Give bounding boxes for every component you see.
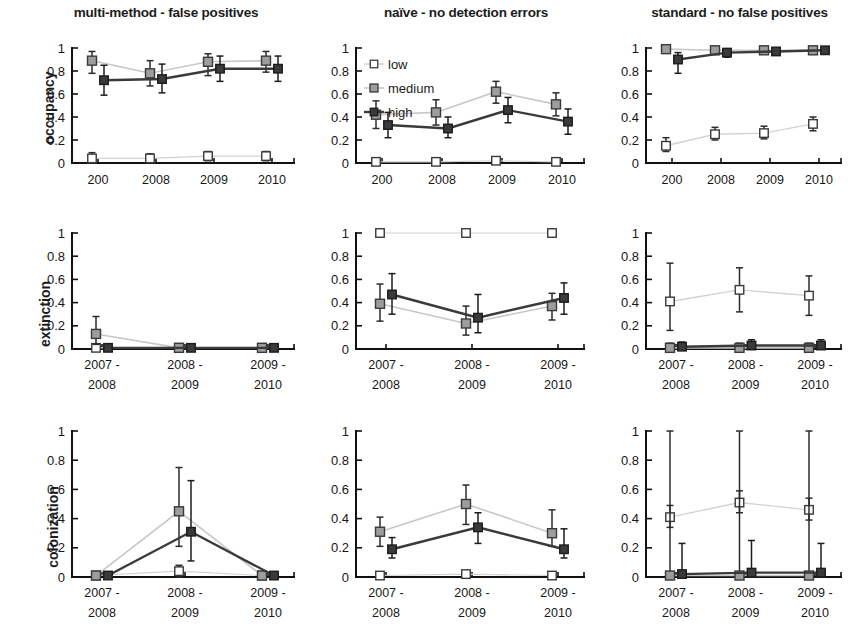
svg-text:0.2: 0.2 bbox=[331, 133, 349, 148]
svg-text:2010: 2010 bbox=[548, 173, 576, 187]
panel-extinction-standard: 00.20.40.60.812007 -20082008 -20092009 -… bbox=[600, 215, 857, 413]
svg-text:2007 -: 2007 - bbox=[658, 358, 693, 372]
svg-text:2009: 2009 bbox=[732, 378, 760, 392]
svg-text:2009: 2009 bbox=[756, 173, 784, 187]
svg-text:2010: 2010 bbox=[801, 378, 829, 392]
svg-text:1: 1 bbox=[58, 226, 65, 241]
figure-root: multi-method - false positives occupancy… bbox=[0, 0, 857, 641]
legend-entry-medium: medium bbox=[364, 81, 434, 96]
panel-colonization-naive: 00.20.40.60.812007 -20082008 -20092009 -… bbox=[310, 413, 600, 641]
panel-occupancy-multimethod: multi-method - false positives occupancy… bbox=[0, 0, 310, 215]
svg-text:2008 -: 2008 - bbox=[167, 358, 202, 372]
svg-text:200: 200 bbox=[372, 173, 393, 187]
svg-text:0: 0 bbox=[342, 570, 349, 585]
svg-text:medium: medium bbox=[388, 81, 434, 96]
svg-text:0.2: 0.2 bbox=[621, 318, 639, 333]
svg-text:2008 -: 2008 - bbox=[454, 586, 489, 600]
svg-text:0.2: 0.2 bbox=[331, 540, 349, 555]
svg-text:0.2: 0.2 bbox=[621, 540, 639, 555]
svg-text:1: 1 bbox=[342, 41, 349, 56]
svg-text:2008 -: 2008 - bbox=[728, 586, 763, 600]
svg-text:2009: 2009 bbox=[458, 378, 486, 392]
svg-text:high: high bbox=[388, 105, 413, 120]
svg-text:1: 1 bbox=[632, 226, 639, 241]
svg-text:200: 200 bbox=[662, 173, 683, 187]
svg-text:0.6: 0.6 bbox=[331, 87, 349, 102]
svg-text:2010: 2010 bbox=[544, 606, 572, 620]
svg-text:0: 0 bbox=[632, 342, 639, 357]
series-low bbox=[662, 117, 818, 152]
svg-text:2009: 2009 bbox=[732, 606, 760, 620]
svg-text:0.6: 0.6 bbox=[621, 87, 639, 102]
svg-text:2009 -: 2009 - bbox=[797, 586, 832, 600]
series-high bbox=[388, 513, 569, 558]
svg-text:0: 0 bbox=[342, 156, 349, 171]
svg-text:2010: 2010 bbox=[801, 606, 829, 620]
plot-area: 00.20.40.60.81200200820092010 bbox=[600, 0, 857, 215]
svg-text:0.8: 0.8 bbox=[621, 64, 639, 79]
svg-text:2010: 2010 bbox=[254, 378, 282, 392]
svg-text:0.4: 0.4 bbox=[331, 110, 349, 125]
svg-text:2008: 2008 bbox=[372, 606, 400, 620]
svg-text:0.8: 0.8 bbox=[47, 249, 65, 264]
svg-text:0.2: 0.2 bbox=[621, 133, 639, 148]
svg-text:0.2: 0.2 bbox=[47, 318, 65, 333]
svg-text:0.6: 0.6 bbox=[331, 272, 349, 287]
svg-text:0.2: 0.2 bbox=[47, 540, 65, 555]
svg-text:2008: 2008 bbox=[707, 173, 735, 187]
svg-text:2009: 2009 bbox=[200, 173, 228, 187]
svg-text:0: 0 bbox=[632, 156, 639, 171]
svg-text:0.8: 0.8 bbox=[621, 453, 639, 468]
svg-text:0.8: 0.8 bbox=[621, 249, 639, 264]
svg-text:2007 -: 2007 - bbox=[368, 358, 403, 372]
svg-text:2008: 2008 bbox=[88, 606, 116, 620]
plot-area: 00.20.40.60.812007 -20082008 -20092009 -… bbox=[0, 413, 310, 641]
svg-text:2008: 2008 bbox=[88, 378, 116, 392]
svg-text:2008: 2008 bbox=[662, 606, 690, 620]
svg-text:2008 -: 2008 - bbox=[167, 586, 202, 600]
panel-colonization-standard: 00.20.40.60.812007 -20082008 -20092009 -… bbox=[600, 413, 857, 641]
svg-text:2009: 2009 bbox=[171, 378, 199, 392]
svg-text:2009 -: 2009 - bbox=[540, 586, 575, 600]
svg-text:0.4: 0.4 bbox=[331, 511, 349, 526]
svg-text:0.4: 0.4 bbox=[47, 295, 65, 310]
svg-text:1: 1 bbox=[58, 424, 65, 439]
svg-text:2007 -: 2007 - bbox=[368, 586, 403, 600]
svg-text:0: 0 bbox=[58, 156, 65, 171]
svg-text:1: 1 bbox=[342, 226, 349, 241]
series-high bbox=[100, 56, 283, 95]
svg-text:1: 1 bbox=[58, 41, 65, 56]
svg-text:0: 0 bbox=[58, 342, 65, 357]
panel-colonization-multimethod: colonization 00.20.40.60.812007 -2008200… bbox=[0, 413, 310, 641]
svg-text:0.2: 0.2 bbox=[331, 318, 349, 333]
svg-text:2010: 2010 bbox=[258, 173, 286, 187]
plot-area: 00.20.40.60.812007 -20082008 -20092009 -… bbox=[0, 215, 310, 413]
svg-text:2007 -: 2007 - bbox=[658, 586, 693, 600]
svg-text:0: 0 bbox=[58, 570, 65, 585]
svg-text:2008 -: 2008 - bbox=[728, 358, 763, 372]
plot-area: 00.20.40.60.81200200820092010lowmediumhi… bbox=[310, 0, 600, 215]
series-high bbox=[104, 481, 279, 580]
svg-text:0.8: 0.8 bbox=[331, 64, 349, 79]
svg-text:0.4: 0.4 bbox=[331, 295, 349, 310]
series-medium bbox=[666, 431, 814, 580]
svg-text:2008 -: 2008 - bbox=[454, 358, 489, 372]
svg-text:2009 -: 2009 - bbox=[540, 358, 575, 372]
svg-text:2010: 2010 bbox=[254, 606, 282, 620]
svg-text:2009: 2009 bbox=[171, 606, 199, 620]
svg-text:200: 200 bbox=[88, 173, 109, 187]
svg-text:2009 -: 2009 - bbox=[250, 358, 285, 372]
svg-text:0.4: 0.4 bbox=[47, 511, 65, 526]
svg-text:low: low bbox=[388, 57, 408, 72]
svg-text:0.4: 0.4 bbox=[621, 511, 639, 526]
svg-text:2008: 2008 bbox=[372, 378, 400, 392]
svg-text:0.6: 0.6 bbox=[331, 482, 349, 497]
plot-area: 00.20.40.60.81200200820092010 bbox=[0, 0, 310, 215]
legend-entry-low: low bbox=[364, 57, 408, 72]
svg-text:1: 1 bbox=[632, 424, 639, 439]
svg-text:2007 -: 2007 - bbox=[84, 586, 119, 600]
panel-grid: multi-method - false positives occupancy… bbox=[0, 0, 857, 641]
panel-occupancy-naive: naïve - no detection errors 00.20.40.60.… bbox=[310, 0, 600, 215]
svg-text:0.2: 0.2 bbox=[47, 133, 65, 148]
svg-text:2009: 2009 bbox=[458, 606, 486, 620]
